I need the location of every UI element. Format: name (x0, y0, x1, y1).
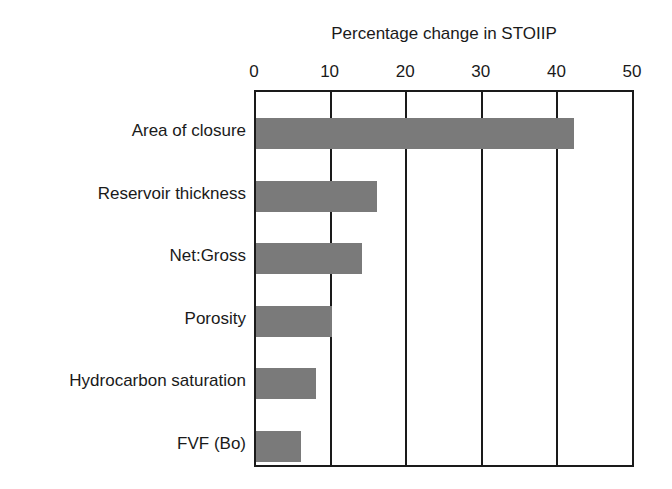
bar (256, 431, 301, 462)
x-tick-label: 0 (249, 62, 258, 82)
x-tick-label: 50 (623, 62, 642, 82)
category-label: Net:Gross (169, 246, 246, 266)
category-label: Area of closure (132, 121, 246, 141)
x-tick-label: 20 (396, 62, 415, 82)
category-label: Porosity (185, 309, 246, 329)
bar (256, 243, 362, 274)
bar (256, 368, 316, 399)
category-label: Hydrocarbon saturation (69, 371, 246, 391)
bar (256, 306, 332, 337)
chart-title: Percentage change in STOIIP (254, 24, 634, 44)
bar (256, 118, 574, 149)
x-tick-label: 10 (320, 62, 339, 82)
bar (256, 181, 377, 212)
category-label: Reservoir thickness (98, 184, 246, 204)
plot-area (254, 90, 634, 467)
x-tick-label: 30 (471, 62, 490, 82)
x-tick-label: 40 (547, 62, 566, 82)
category-label: FVF (Bo) (177, 434, 246, 454)
